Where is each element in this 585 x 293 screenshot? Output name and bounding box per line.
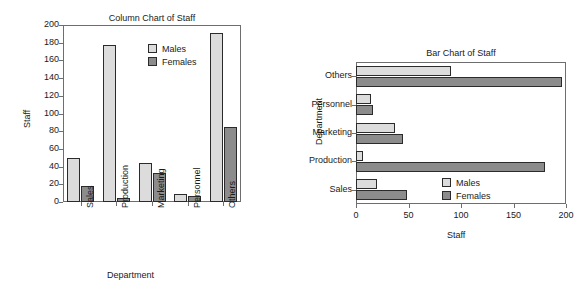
column-chart-y-tick-mark [59, 167, 63, 168]
horizontal-bar-marketing-males [356, 123, 395, 133]
column-chart-title: Column Chart of Staff [63, 13, 241, 23]
column-chart-y-tick-label: 140 [29, 72, 59, 82]
horizontal-bar-production-females [356, 162, 545, 172]
horizontal-bar-sales-males [356, 179, 377, 189]
bar-chart-x-tick-mark [566, 204, 567, 208]
bar-chart-x-tick-mark [409, 204, 410, 208]
bar-chart-x-axis-label: Staff [447, 230, 465, 240]
column-chart-y-tick-label: 40 [29, 161, 59, 171]
column-chart-y-tick-mark [59, 131, 63, 132]
horizontal-bar-production-males [356, 151, 363, 161]
bar-chart-x-tick-label: 0 [341, 210, 371, 220]
column-chart-x-tick-mark [223, 202, 224, 206]
horizontal-bar-others-males [356, 66, 451, 76]
legend-swatch-males-icon [148, 44, 157, 53]
bar-chart-x-tick-mark [461, 204, 462, 208]
bar-chart-y-tick-label: Others [294, 70, 352, 80]
legend-entry-females: Females [148, 55, 197, 68]
legend-entry-males: Males [442, 176, 491, 189]
column-chart-legend: Males Females [148, 42, 197, 68]
column-chart-y-tick-label: 160 [29, 54, 59, 64]
bar-chart-title: Bar Chart of Staff [356, 48, 566, 58]
column-chart-x-tick-mark [81, 202, 82, 206]
column-chart-x-tick-label: Others [227, 181, 237, 208]
bar-chart-legend: Males Females [442, 176, 491, 202]
column-chart-y-tick-mark [59, 149, 63, 150]
bar-chart-x-tick-mark [356, 204, 357, 208]
column-bar-personnel-males [174, 194, 187, 202]
bar-chart-y-tick-label: Sales [294, 184, 352, 194]
column-chart-y-tick-label: 100 [29, 108, 59, 118]
legend-swatch-females-icon [148, 57, 157, 66]
column-chart-y-tick-label: 20 [29, 178, 59, 188]
legend-label-females: Females [456, 191, 491, 201]
column-chart-y-tick-mark [59, 78, 63, 79]
column-chart-y-tick-mark [59, 96, 63, 97]
bar-chart-x-tick-label: 150 [499, 210, 529, 220]
column-chart-x-tick-mark [116, 202, 117, 206]
bar-chart-x-tick-label: 50 [394, 210, 424, 220]
bar-chart-y-tick-label: Production [294, 155, 352, 165]
column-chart-y-tick-mark [59, 60, 63, 61]
legend-label-males: Males [162, 44, 186, 54]
horizontal-bar-others-females [356, 77, 562, 87]
column-chart-y-tick-mark [59, 202, 63, 203]
legend-label-females: Females [162, 57, 197, 67]
column-chart-x-tick-label: Marketing [156, 168, 166, 208]
horizontal-bar-personnel-females [356, 105, 373, 115]
legend-swatch-males-icon [442, 178, 451, 187]
column-chart-y-tick-mark [59, 184, 63, 185]
column-chart-x-tick-label: Sales [85, 185, 95, 208]
horizontal-bar-marketing-females [356, 134, 403, 144]
column-chart-x-tick-mark [152, 202, 153, 206]
column-chart-y-tick-label: 80 [29, 125, 59, 135]
column-chart-y-tick-label: 60 [29, 143, 59, 153]
bar-chart-x-tick-mark [514, 204, 515, 208]
legend-entry-males: Males [148, 42, 197, 55]
column-chart: Column Chart of Staff Staff Department M… [0, 0, 292, 293]
column-chart-y-tick-label: 180 [29, 37, 59, 47]
horizontal-bar-sales-females [356, 190, 407, 200]
bar-chart-y-tick-label: Personnel [294, 99, 352, 109]
column-chart-y-tick-label: 120 [29, 90, 59, 100]
column-bar-production-males [103, 45, 116, 202]
bar-chart-x-tick-label: 100 [446, 210, 476, 220]
column-chart-y-tick-mark [59, 114, 63, 115]
column-chart-x-tick-label: Production [120, 165, 130, 208]
column-chart-y-tick-label: 0 [29, 196, 59, 206]
horizontal-bar-personnel-males [356, 94, 371, 104]
bar-chart: Bar Chart of Staff Department Staff Male… [292, 0, 585, 293]
column-chart-x-tick-label: Personnel [192, 167, 202, 208]
legend-label-males: Males [456, 178, 480, 188]
column-bar-marketing-males [139, 163, 152, 202]
column-chart-x-tick-mark [188, 202, 189, 206]
column-chart-y-tick-mark [59, 43, 63, 44]
column-chart-y-tick-mark [59, 25, 63, 26]
bar-chart-y-tick-label: Marketing [294, 127, 352, 137]
legend-entry-females: Females [442, 189, 491, 202]
column-bar-sales-males [67, 158, 80, 202]
column-chart-x-axis-label: Department [107, 270, 154, 280]
legend-swatch-females-icon [442, 191, 451, 200]
bar-chart-x-tick-label: 200 [551, 210, 581, 220]
column-bar-others-males [210, 33, 223, 202]
column-chart-y-tick-label: 200 [29, 19, 59, 29]
